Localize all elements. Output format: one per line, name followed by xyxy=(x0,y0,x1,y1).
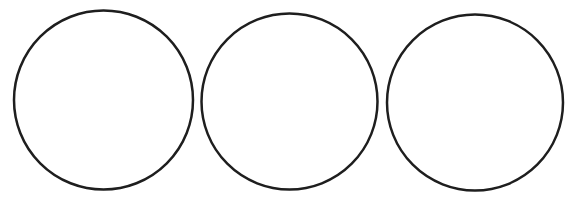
circle-1 xyxy=(14,11,193,190)
three-circles-diagram xyxy=(0,0,573,203)
circle-2 xyxy=(202,14,378,190)
circle-3 xyxy=(387,15,563,191)
